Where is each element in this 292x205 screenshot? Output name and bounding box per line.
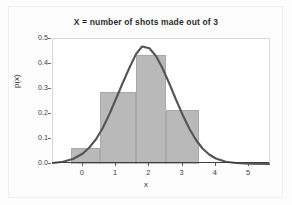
x-axis-tick-label: 0 (73, 168, 91, 177)
y-axis-tick-mark (48, 113, 51, 114)
x-axis-tick-labels: 012345 (0, 0, 292, 205)
y-axis-tick-mark (48, 38, 51, 39)
x-axis-tick-mark (215, 163, 216, 166)
x-axis-tick-label: 5 (239, 168, 257, 177)
x-axis-tick-mark (115, 163, 116, 166)
chart-figure: X = number of shots made out of 3 p(x) 0… (0, 0, 292, 205)
x-axis-tick-label: 4 (206, 168, 224, 177)
x-axis-tick-label: 2 (139, 168, 157, 177)
x-axis-tick-mark (148, 163, 149, 166)
x-axis-tick-mark (248, 163, 249, 166)
y-axis-tick-mark (48, 63, 51, 64)
y-axis-tick-mark (48, 163, 51, 164)
x-axis-label: x (0, 180, 292, 189)
x-axis-tick-mark (182, 163, 183, 166)
x-axis-tick-label: 1 (106, 168, 124, 177)
x-axis-tick-label: 3 (173, 168, 191, 177)
y-axis-tick-mark (48, 138, 51, 139)
y-axis-tick-mark (48, 88, 51, 89)
x-axis-tick-mark (82, 163, 83, 166)
